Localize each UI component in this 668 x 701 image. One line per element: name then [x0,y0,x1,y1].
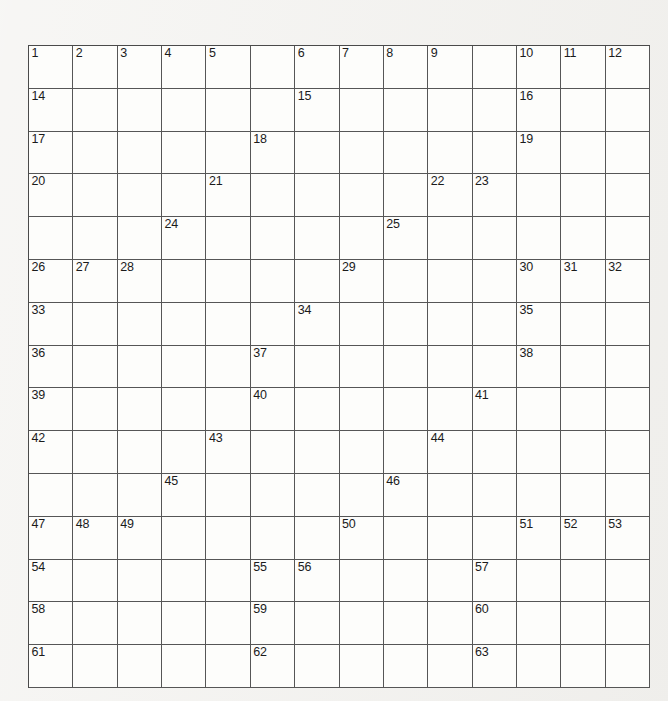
grid-cell[interactable]: 8 [384,46,428,89]
grid-cell[interactable]: 24 [162,217,206,260]
grid-cell[interactable] [384,132,428,175]
grid-cell[interactable] [517,388,561,431]
grid-cell[interactable] [340,431,384,474]
grid-cell[interactable] [473,260,517,303]
grid-cell[interactable]: 39 [29,388,73,431]
grid-cell[interactable] [295,132,339,175]
grid-cell[interactable] [561,303,605,346]
grid-cell[interactable] [473,474,517,517]
grid-cell[interactable]: 19 [517,132,561,175]
grid-cell[interactable] [206,474,250,517]
grid-cell[interactable] [428,217,472,260]
grid-cell[interactable]: 20 [29,174,73,217]
grid-cell[interactable] [384,260,428,303]
grid-cell[interactable]: 54 [29,560,73,603]
grid-cell[interactable]: 43 [206,431,250,474]
grid-cell[interactable] [606,388,650,431]
grid-cell[interactable] [384,346,428,389]
grid-cell[interactable]: 35 [517,303,561,346]
grid-cell[interactable] [295,217,339,260]
grid-cell[interactable]: 44 [428,431,472,474]
grid-cell[interactable]: 53 [606,517,650,560]
grid-cell[interactable] [384,560,428,603]
grid-cell[interactable] [384,303,428,346]
grid-cell[interactable]: 47 [29,517,73,560]
grid-cell[interactable] [118,431,162,474]
grid-cell[interactable] [561,560,605,603]
grid-cell[interactable] [118,560,162,603]
grid-cell[interactable] [295,431,339,474]
grid-cell[interactable] [73,645,117,688]
grid-cell[interactable] [251,474,295,517]
grid-cell[interactable]: 27 [73,260,117,303]
grid-cell[interactable] [162,303,206,346]
grid-cell[interactable]: 50 [340,517,384,560]
grid-cell[interactable]: 32 [606,260,650,303]
grid-cell[interactable]: 29 [340,260,384,303]
grid-cell[interactable] [517,174,561,217]
grid-cell[interactable] [118,645,162,688]
grid-cell[interactable] [340,602,384,645]
grid-cell[interactable] [606,560,650,603]
grid-cell[interactable] [206,217,250,260]
grid-cell[interactable]: 56 [295,560,339,603]
grid-cell[interactable] [162,602,206,645]
grid-cell[interactable] [73,89,117,132]
grid-cell[interactable] [473,217,517,260]
grid-cell[interactable] [118,132,162,175]
grid-cell[interactable] [162,431,206,474]
grid-cell[interactable] [162,388,206,431]
grid-cell[interactable] [206,89,250,132]
grid-cell[interactable] [251,217,295,260]
grid-cell[interactable] [118,388,162,431]
grid-cell[interactable]: 34 [295,303,339,346]
grid-cell[interactable] [295,645,339,688]
grid-cell[interactable] [606,602,650,645]
grid-cell[interactable] [606,174,650,217]
grid-cell[interactable] [428,517,472,560]
grid-cell[interactable]: 55 [251,560,295,603]
grid-cell[interactable] [428,346,472,389]
grid-cell[interactable] [517,560,561,603]
grid-cell[interactable]: 61 [29,645,73,688]
grid-cell[interactable] [606,89,650,132]
grid-cell[interactable] [295,474,339,517]
grid-cell[interactable] [561,602,605,645]
grid-cell[interactable] [340,645,384,688]
grid-cell[interactable]: 52 [561,517,605,560]
grid-cell[interactable]: 46 [384,474,428,517]
grid-cell[interactable] [251,260,295,303]
grid-cell[interactable] [73,431,117,474]
grid-cell[interactable] [206,260,250,303]
grid-cell[interactable]: 42 [29,431,73,474]
grid-cell[interactable] [340,388,384,431]
grid-cell[interactable] [118,174,162,217]
grid-cell[interactable] [118,602,162,645]
grid-cell[interactable]: 7 [340,46,384,89]
grid-cell[interactable]: 18 [251,132,295,175]
grid-cell[interactable] [206,517,250,560]
grid-cell[interactable] [606,132,650,175]
grid-cell[interactable]: 48 [73,517,117,560]
grid-cell[interactable] [384,645,428,688]
grid-cell[interactable]: 10 [517,46,561,89]
grid-cell[interactable] [118,89,162,132]
grid-cell[interactable] [295,602,339,645]
grid-cell[interactable] [340,89,384,132]
grid-cell[interactable] [73,602,117,645]
grid-cell[interactable] [428,474,472,517]
grid-cell[interactable] [517,602,561,645]
grid-cell[interactable] [517,431,561,474]
grid-cell[interactable] [561,174,605,217]
grid-cell[interactable]: 31 [561,260,605,303]
grid-cell[interactable] [340,560,384,603]
grid-cell[interactable]: 38 [517,346,561,389]
grid-cell[interactable] [118,303,162,346]
grid-cell[interactable] [428,132,472,175]
grid-cell[interactable] [384,602,428,645]
grid-cell[interactable]: 15 [295,89,339,132]
grid-cell[interactable] [73,388,117,431]
grid-cell[interactable]: 25 [384,217,428,260]
grid-cell[interactable] [162,346,206,389]
grid-cell[interactable]: 57 [473,560,517,603]
